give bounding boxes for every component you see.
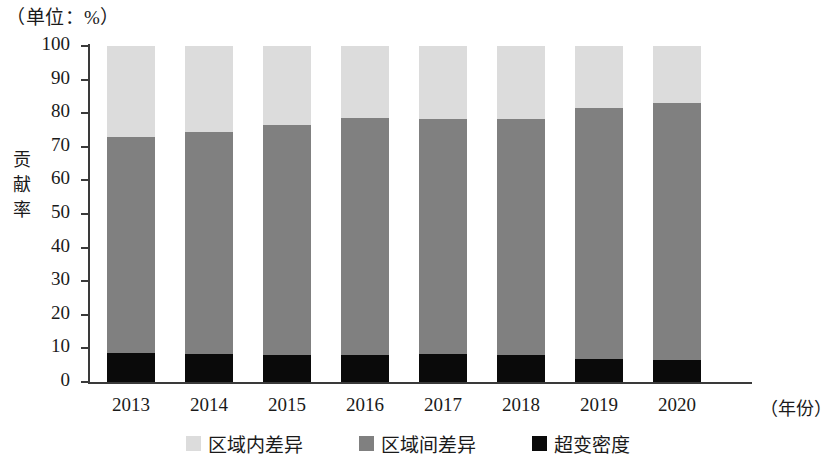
bar-segment-density bbox=[497, 355, 545, 382]
bar-segment-density bbox=[341, 355, 389, 382]
y-tick: 60 bbox=[81, 179, 89, 181]
bar-group bbox=[419, 46, 467, 382]
legend-label: 超变密度 bbox=[554, 430, 630, 457]
x-axis-title: （年份） bbox=[760, 394, 825, 420]
bar-segment-between-region bbox=[185, 132, 233, 354]
bar-segment-between-region bbox=[419, 119, 467, 355]
x-axis-line bbox=[88, 382, 752, 384]
bar-segment-between-region bbox=[107, 137, 155, 353]
bar-group bbox=[185, 46, 233, 382]
bar-segment-within-region bbox=[107, 46, 155, 137]
unit-caption: （单位：%） bbox=[6, 2, 120, 29]
y-tick: 20 bbox=[81, 314, 89, 316]
plot-area: 0102030405060708090100 20132014201520162… bbox=[88, 46, 748, 382]
bar-segment-density bbox=[185, 354, 233, 382]
bar-segment-within-region bbox=[653, 46, 701, 103]
bar-segment-within-region bbox=[263, 46, 311, 125]
bar-segment-density bbox=[263, 355, 311, 382]
x-axis-label: 2015 bbox=[247, 394, 327, 416]
y-tick: 50 bbox=[81, 213, 89, 215]
y-tick-label: 40 bbox=[30, 236, 70, 256]
y-tick-label: 80 bbox=[30, 101, 70, 121]
legend-swatch-icon bbox=[532, 436, 547, 451]
y-tick: 70 bbox=[81, 146, 89, 148]
bar-group bbox=[575, 46, 623, 382]
bar-group bbox=[653, 46, 701, 382]
bar-segment-density bbox=[575, 359, 623, 382]
bar-segment-between-region bbox=[497, 119, 545, 356]
bar-segment-within-region bbox=[419, 46, 467, 119]
bar-segment-within-region bbox=[341, 46, 389, 118]
y-tick: 10 bbox=[81, 347, 89, 349]
y-tick-label: 20 bbox=[30, 303, 70, 323]
x-axis-label: 2020 bbox=[637, 394, 717, 416]
legend-label: 区域间差异 bbox=[381, 430, 476, 457]
bar-segment-within-region bbox=[497, 46, 545, 119]
legend-label: 区域内差异 bbox=[208, 430, 303, 457]
y-tick-label: 60 bbox=[30, 168, 70, 188]
legend-item[interactable]: 超变密度 bbox=[532, 430, 630, 457]
bar-segment-density bbox=[419, 354, 467, 382]
x-axis-label: 2016 bbox=[325, 394, 405, 416]
y-tick: 30 bbox=[81, 280, 89, 282]
y-tick-label: 50 bbox=[30, 202, 70, 222]
legend-swatch-icon bbox=[359, 436, 374, 451]
bar-segment-density bbox=[107, 353, 155, 382]
bar-segment-within-region bbox=[185, 46, 233, 132]
x-axis-label: 2019 bbox=[559, 394, 639, 416]
y-tick-label: 90 bbox=[30, 68, 70, 88]
bar-segment-within-region bbox=[575, 46, 623, 108]
x-axis-label: 2013 bbox=[91, 394, 171, 416]
y-tick-label: 70 bbox=[30, 135, 70, 155]
bar-group bbox=[263, 46, 311, 382]
y-tick-label: 30 bbox=[30, 269, 70, 289]
x-axis-label: 2018 bbox=[481, 394, 561, 416]
y-tick: 100 bbox=[81, 45, 89, 47]
x-axis-label: 2017 bbox=[403, 394, 483, 416]
chart-legend: 区域内差异区域间差异超变密度 bbox=[0, 430, 816, 457]
legend-item[interactable]: 区域间差异 bbox=[359, 430, 476, 457]
y-tick: 90 bbox=[81, 79, 89, 81]
bar-segment-between-region bbox=[341, 118, 389, 356]
bar-segment-between-region bbox=[575, 108, 623, 359]
y-tick: 80 bbox=[81, 112, 89, 114]
y-tick: 0 bbox=[81, 381, 89, 383]
y-tick-label: 0 bbox=[30, 370, 70, 390]
legend-item[interactable]: 区域内差异 bbox=[186, 430, 303, 457]
y-tick: 40 bbox=[81, 247, 89, 249]
legend-swatch-icon bbox=[186, 436, 201, 451]
y-tick-label: 10 bbox=[30, 336, 70, 356]
bar-group bbox=[497, 46, 545, 382]
bar-segment-between-region bbox=[653, 103, 701, 360]
y-tick-label: 100 bbox=[30, 34, 70, 54]
bar-group bbox=[107, 46, 155, 382]
bar-segment-density bbox=[653, 360, 701, 382]
bar-group bbox=[341, 46, 389, 382]
bar-segment-between-region bbox=[263, 125, 311, 355]
x-axis-label: 2014 bbox=[169, 394, 249, 416]
